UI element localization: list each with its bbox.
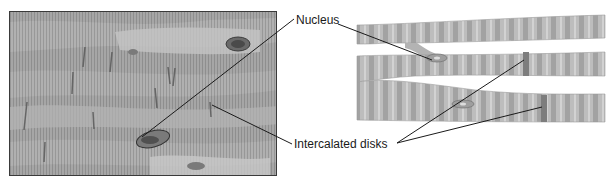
- nucleus-label: Nucleus: [296, 13, 339, 27]
- cardiac-fibers-drawing: [355, 10, 606, 130]
- intercalated-disk: [523, 52, 529, 76]
- intercalated-disk: [541, 95, 547, 122]
- micrograph-texture: [10, 12, 277, 176]
- fiber-top: [357, 15, 605, 44]
- fiber-bottom: [357, 80, 605, 122]
- fiber-middle: [357, 52, 605, 82]
- intercalated-disks-label: Intercalated disks: [294, 137, 387, 151]
- micrograph-photo: [9, 11, 277, 176]
- fiber-illustration: [355, 10, 606, 134]
